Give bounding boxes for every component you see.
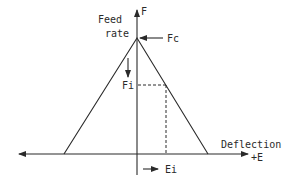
fi-label: Fi: [122, 80, 134, 91]
feed-rate-diagram: Feed rate F Fc Fi Deflection +E Ei: [0, 0, 297, 183]
ei-label: Ei: [165, 164, 177, 175]
x-axis-symbol: +E: [251, 152, 263, 163]
y-axis-label-line2: rate: [105, 28, 129, 39]
x-axis-label: Deflection: [221, 139, 281, 150]
fc-label: Fc: [167, 33, 179, 44]
y-axis-label-line1: Feed: [98, 14, 122, 25]
y-axis-symbol: F: [141, 6, 147, 17]
feed-rate-profile: [64, 38, 208, 154]
